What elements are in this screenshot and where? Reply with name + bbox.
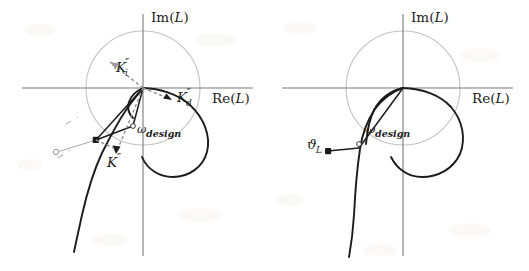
left-imaginary-axis-label: Im(L) [151, 9, 189, 25]
left-re-variable: L [234, 90, 244, 106]
right-theta-label-subscript: L [315, 145, 322, 155]
left-kd-label-subscript: d [186, 98, 192, 108]
left-re-prefix: Re( [212, 90, 235, 106]
left-omega-design-subscript: design [146, 128, 181, 139]
left-design-point-marker [93, 137, 99, 143]
left-re-suffix: ) [244, 90, 249, 106]
right-omega-design-marker [357, 142, 362, 147]
left-kd-label-group: K d ″ [176, 86, 192, 108]
right-omega-design-subscript: design [375, 128, 410, 139]
right-imaginary-axis-label: Im(L) [411, 9, 449, 25]
left-im-variable: L [173, 9, 183, 25]
left-im-prefix: Im( [151, 9, 174, 25]
nyquist-figure: Im(L) Re(L) K i ″ K d ″ K ″ ω design [0, 0, 529, 271]
left-omega-design-marker [131, 124, 136, 129]
right-real-axis-label: Re(L) [472, 90, 510, 106]
right-im-prefix: Im( [411, 9, 434, 25]
left-helper-open-circle [53, 149, 58, 154]
left-ki-label-group: K i ″ [115, 56, 130, 78]
right-im-variable: L [433, 9, 443, 25]
left-ki-label-subscript: i [125, 68, 128, 78]
right-im-suffix: ) [443, 9, 448, 25]
left-real-axis-label: Re(L) [212, 90, 250, 106]
right-re-variable: L [494, 90, 504, 106]
right-theta-point-marker [325, 148, 331, 154]
right-re-suffix: ) [504, 90, 509, 106]
left-im-suffix: ) [183, 9, 188, 25]
right-re-prefix: Re( [472, 90, 495, 106]
